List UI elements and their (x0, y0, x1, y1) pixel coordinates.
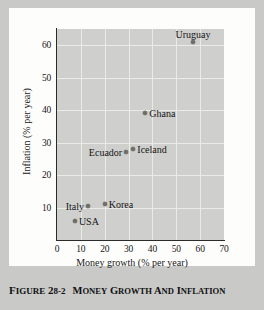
figure-title: MONEY GROWTH AND INFLATION (73, 285, 226, 296)
x-axis-title: Money growth (% per year) (9, 257, 255, 268)
data-point-marker (73, 219, 77, 223)
gridline-horizontal (57, 175, 224, 176)
data-point-label: Italy (66, 200, 84, 211)
x-tick-label: 60 (196, 244, 205, 254)
y-tick-label: 60 (34, 40, 51, 50)
y-tick-label: 40 (34, 105, 51, 115)
data-point-label: Ghana (149, 108, 175, 119)
x-tick-label: 30 (124, 244, 133, 254)
x-tick-label: 10 (76, 244, 85, 254)
y-tick-label: 20 (34, 170, 51, 180)
y-tick-label: 50 (34, 73, 51, 83)
x-axis-line (56, 240, 225, 241)
data-point-label: Korea (109, 199, 133, 210)
data-point-label: Ecuador (89, 147, 122, 158)
figure-caption: FIGURE 28-2MONEY GROWTH AND INFLATION (9, 280, 255, 298)
gridline-horizontal (57, 78, 224, 79)
data-point-marker (86, 204, 90, 208)
y-tick-label: 10 (34, 203, 51, 213)
figure-container: 010203040506070102030405060 UruguayGhana… (0, 0, 264, 310)
data-point-label: Uruguay (175, 29, 210, 40)
data-point-label: Iceland (137, 144, 166, 155)
y-axis-title: Inflation (% per year) (21, 47, 32, 217)
data-point-label: USA (79, 215, 99, 226)
data-point-marker (131, 147, 135, 151)
y-tick-label: 30 (34, 138, 51, 148)
chart-card: 010203040506070102030405060 UruguayGhana… (9, 8, 255, 266)
x-tick-label: 50 (172, 244, 181, 254)
x-tick-label: 70 (219, 244, 228, 254)
data-point-marker (124, 150, 128, 154)
x-tick-label: 0 (55, 244, 60, 254)
y-axis-line (56, 28, 57, 241)
data-point-marker (191, 40, 195, 44)
gridline-horizontal (57, 110, 224, 111)
data-point-marker (103, 202, 107, 206)
x-tick-label: 20 (100, 244, 109, 254)
figure-number: FIGURE 28-2 (9, 284, 66, 296)
data-point-marker (143, 111, 147, 115)
gridline-horizontal (57, 45, 224, 46)
x-tick-label: 40 (148, 244, 157, 254)
